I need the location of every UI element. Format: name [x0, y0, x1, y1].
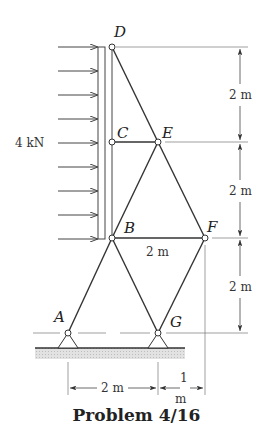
label-g: G	[170, 313, 182, 331]
joint-a	[65, 330, 71, 336]
ground	[35, 348, 185, 359]
label-b: B	[123, 219, 135, 237]
label-e: E	[161, 124, 173, 142]
label-c: C	[117, 124, 129, 142]
figure-caption: Problem 4/16	[0, 405, 273, 425]
dim-ag-span: 2 m	[101, 381, 124, 395]
label-f: F	[206, 218, 218, 236]
dim-bf-span: 2 m	[146, 245, 169, 259]
joint-g	[155, 330, 161, 336]
truss-diagram: 4 kN 2 m 2 m 2 m 2 m	[0, 0, 273, 443]
truss-members	[68, 47, 205, 333]
dim-ef-height: 2 m	[229, 184, 252, 198]
dim-g-offset-unit: m	[175, 392, 187, 406]
joint-d	[109, 44, 115, 50]
dim-de-height: 2 m	[229, 88, 252, 102]
load-label: 4 kN	[15, 136, 44, 150]
dim-fg-height: 2 m	[229, 280, 252, 294]
label-d: D	[113, 23, 126, 41]
joint-e	[155, 139, 161, 145]
dim-g-offset-num: 1	[180, 371, 188, 385]
joint-b	[109, 235, 115, 241]
distributed-load-arrows	[58, 47, 97, 239]
label-a: A	[52, 308, 65, 326]
joint-c	[109, 139, 115, 145]
